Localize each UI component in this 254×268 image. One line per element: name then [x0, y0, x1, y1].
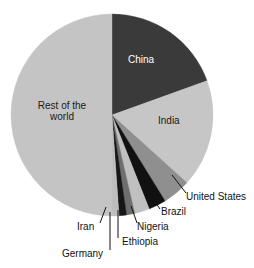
slice-label-rest-of-world-line2: world: [50, 111, 74, 122]
slice-label-rest-of-world-line1: Rest of the: [38, 100, 86, 111]
callout-label-iran: Iran: [77, 221, 94, 232]
callout-label-brazil: Brazil: [161, 206, 186, 217]
slice-label-rest-of-world: Rest of the world: [26, 100, 98, 122]
callout-label-ethiopia: Ethiopia: [122, 236, 158, 247]
pie-chart-svg: [0, 0, 254, 268]
callout-label-nigeria: Nigeria: [137, 221, 169, 232]
callout-label-united-states: United States: [186, 191, 246, 202]
slice-label-india: India: [158, 115, 180, 126]
callout-label-germany: Germany: [62, 248, 103, 259]
slice-label-china: China: [128, 54, 154, 65]
pie-chart-figure: China India Rest of the world United Sta…: [0, 0, 254, 268]
